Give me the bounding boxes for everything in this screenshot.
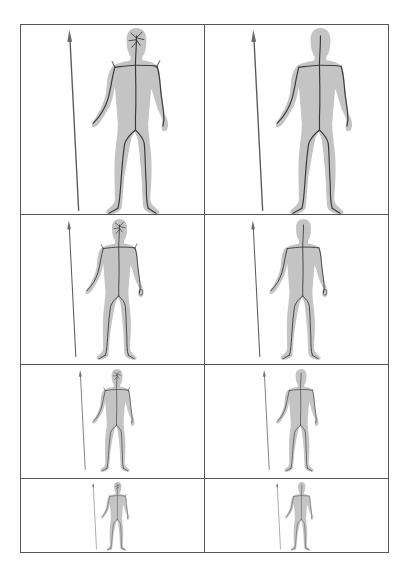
- human-pruned-skeleton-figure: [205, 479, 388, 553]
- figure-cell-row4-col1: [21, 479, 204, 553]
- figure-cell-row2-col1: [21, 215, 204, 364]
- figure-cell-row1-col1: [21, 25, 204, 214]
- human-pruned-skeleton-figure: [205, 25, 388, 214]
- human-skeleton-figure: [21, 479, 204, 553]
- figure-cell-row4-col2: [205, 479, 388, 553]
- figure-cell-row3-col1: [21, 365, 204, 478]
- figure-cell-row2-col2: [205, 215, 388, 364]
- human-pruned-skeleton-figure: [205, 215, 388, 364]
- figure-cell-row3-col2: [205, 365, 388, 478]
- figure-cell-row1-col2: [205, 25, 388, 214]
- human-pruned-skeleton-figure: [205, 365, 388, 478]
- human-skeleton-figure: [21, 25, 204, 214]
- human-skeleton-figure: [21, 215, 204, 364]
- human-skeleton-figure: [21, 365, 204, 478]
